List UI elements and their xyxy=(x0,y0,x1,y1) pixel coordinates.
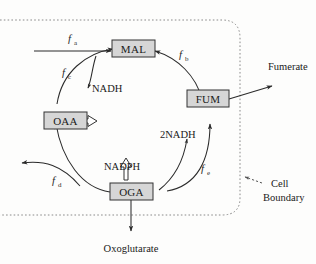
cofactor-nadph-label: NADPH xyxy=(104,161,141,172)
flux-fa-base: f xyxy=(68,32,73,44)
flux-fc-base: f xyxy=(62,66,67,78)
arrow-oaa-mal-fc xyxy=(57,49,113,104)
flux-fe-sub: e xyxy=(207,169,210,177)
flux-fd-sub: d xyxy=(58,181,62,189)
flux-fb-base: f xyxy=(179,48,184,60)
flux-label-fd: f d xyxy=(52,174,62,189)
cell-boundary-annotation: Cell Boundary xyxy=(245,177,305,203)
flux-fd-base: f xyxy=(52,174,57,186)
node-fum[interactable]: FUM xyxy=(187,90,229,107)
node-oaa[interactable]: OAA xyxy=(44,112,87,129)
cell-boundary-leader-icon xyxy=(245,177,262,183)
flux-label-fe: f e xyxy=(201,162,210,177)
node-oga[interactable]: OGA xyxy=(110,183,153,200)
flux-fa-sub: a xyxy=(74,39,78,47)
cofactor-nadh-label: NADH xyxy=(92,83,123,94)
flux-fc-sub: c xyxy=(68,73,71,81)
flux-fb-sub: b xyxy=(185,55,189,63)
node-fum-label: FUM xyxy=(196,93,221,105)
flux-fe-base: f xyxy=(201,162,206,174)
external-fumerate-label: Fumerate xyxy=(268,61,308,72)
node-oga-label: OGA xyxy=(119,186,144,198)
node-mal[interactable]: MAL xyxy=(112,40,155,57)
diagram-canvas: MAL FUM OGA OAA NADH 2NADH NADPH f a f b xyxy=(0,0,316,264)
flux-label-fa: f a xyxy=(68,32,78,47)
arrow-2nadh-production xyxy=(159,139,187,190)
node-mal-label: MAL xyxy=(121,43,146,55)
metabolic-pathway-diagram: MAL FUM OGA OAA NADH 2NADH NADPH f a f b xyxy=(0,0,316,264)
flux-label-fb: f b xyxy=(179,48,189,63)
external-oxoglutarate-label: Oxoglutarate xyxy=(104,243,159,254)
arrow-fum-to-fumerate xyxy=(229,86,272,99)
cell-boundary-label-line1: Cell xyxy=(271,178,289,189)
arrow-oga-oaa xyxy=(56,124,110,192)
cofactor-2nadh-label: 2NADH xyxy=(160,129,196,140)
cell-boundary-label-line2: Boundary xyxy=(263,192,305,203)
node-oaa-label: OAA xyxy=(53,115,78,127)
